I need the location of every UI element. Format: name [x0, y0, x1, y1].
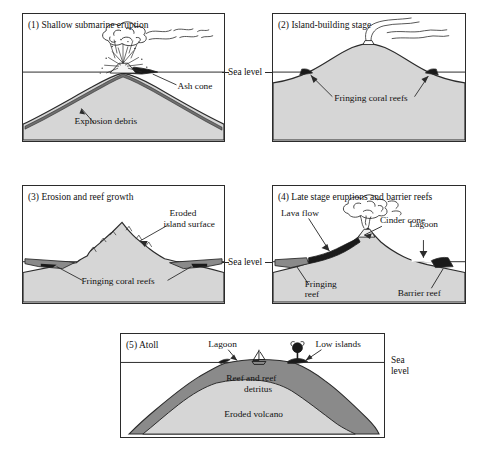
sea-level-tick-top-right — [265, 72, 273, 73]
barrier-reef-shape — [431, 257, 453, 267]
drifting-smoke-wisps — [146, 29, 213, 40]
label-eroded-island-surface-line1: Eroded — [170, 209, 197, 219]
panel-3-caption: (3) Erosion and reef growth — [28, 192, 134, 203]
sea-level-label-bottom-line2: level — [391, 366, 409, 377]
steam-plume — [366, 18, 450, 41]
label-ash-cone: Ash cone — [177, 81, 212, 91]
panel-2-caption: (2) Island-building stage — [278, 20, 371, 31]
sea-level-tick-top-left — [222, 72, 229, 73]
sea-level-label-top: Sea level — [228, 67, 262, 78]
panel-4-caption: (4) Late stage eruptions and barrier ree… — [278, 192, 433, 203]
label-lagoon: Lagoon — [208, 339, 237, 349]
lagoon-arrowhead — [419, 251, 427, 258]
sea-level-label-bottom: Sea level — [391, 355, 409, 376]
panel-5-caption: (5) Atoll — [126, 340, 159, 351]
label-barrier-reef: Barrier reef — [398, 288, 442, 298]
label-low-islands: Low islands — [316, 339, 362, 349]
summit-vent — [363, 41, 374, 45]
label-lagoon: Lagoon — [410, 219, 439, 229]
label-reef-detritus-line1: Reef and reef — [226, 373, 277, 383]
ash-column — [360, 215, 371, 228]
low-islands-arrowhead — [306, 355, 313, 361]
label-fringing-reef-line2: reef — [305, 289, 320, 299]
label-fringing-reef-line1: Fringing — [305, 279, 337, 289]
label-eroded-volcano: Eroded volcano — [224, 409, 283, 419]
panel-1-shallow-submarine-eruption: (1) Shallow submarine eruption Ash cone … — [22, 13, 225, 142]
panel-1-caption: (1) Shallow submarine eruption — [28, 20, 149, 31]
ash-cone-crater — [110, 63, 136, 73]
ash-cone-leader — [153, 74, 177, 85]
panel-3-erosion-and-reef-growth: Eroded island surface Fringing coral ree… — [22, 185, 225, 304]
label-reef-detritus-line2: detritus — [244, 384, 272, 394]
panel-2-island-building-stage: (2) Island-building stage Fringing coral… — [272, 13, 466, 142]
lagoon-arrowhead — [230, 355, 237, 361]
panel-4-late-stage-eruptions-and-barrier-reefs: (4) Late stage eruptions and barrier ree… — [272, 185, 466, 304]
sea-level-label-middle: Sea level — [228, 257, 262, 268]
label-eroded-island-surface-line2: island surface — [164, 219, 215, 229]
palm-tree-icon — [291, 342, 304, 360]
label-explosion-debris: Explosion debris — [74, 116, 137, 126]
label-lava-flow: Lava flow — [281, 209, 319, 219]
label-fringing-coral-reefs: Fringing coral reefs — [334, 93, 408, 103]
label-fringing-coral-reefs: Fringing coral reefs — [81, 276, 155, 286]
sea-level-tick-mid-right — [265, 262, 273, 263]
panel-5-atoll: (5) Atoll Lagoon Low islands Reef and re… — [120, 333, 385, 438]
sea-level-label-bottom-line1: Sea — [391, 355, 409, 366]
sea-level-tick-mid-left — [222, 262, 229, 263]
